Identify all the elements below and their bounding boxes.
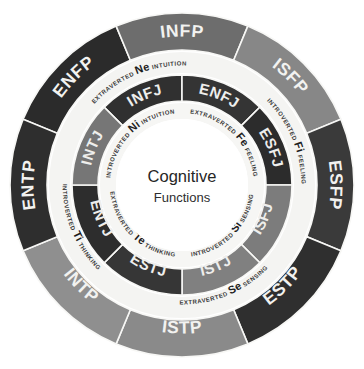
cognitive-functions-wheel: ENFPINFPISFPESFPESTPISTPINTPENTPINFJENFJ… bbox=[0, 0, 364, 369]
wheel-svg: ENFPINFPISFPESFPESTPISTPINTPENTPINFJENFJ… bbox=[0, 0, 364, 369]
outer-type-label-istp: ISTP bbox=[161, 316, 203, 337]
center-subtitle: Functions bbox=[154, 190, 211, 205]
center-title: Cognitive bbox=[148, 167, 217, 185]
center-disc bbox=[116, 119, 248, 251]
outer-type-label-entp: ENTP bbox=[17, 159, 39, 212]
